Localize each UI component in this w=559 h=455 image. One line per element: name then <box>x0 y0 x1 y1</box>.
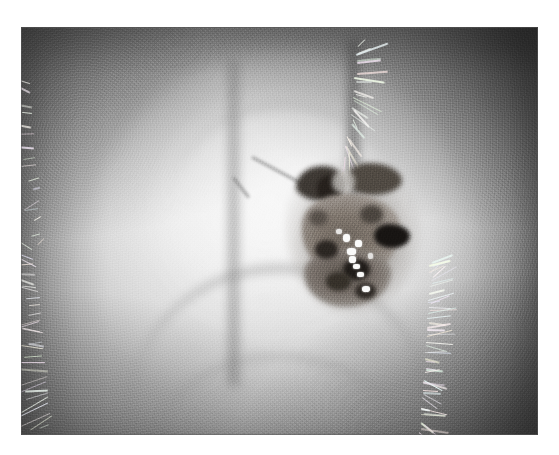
clinical-photograph <box>21 27 538 435</box>
page-root <box>0 0 559 455</box>
photo-vignette <box>21 27 538 435</box>
